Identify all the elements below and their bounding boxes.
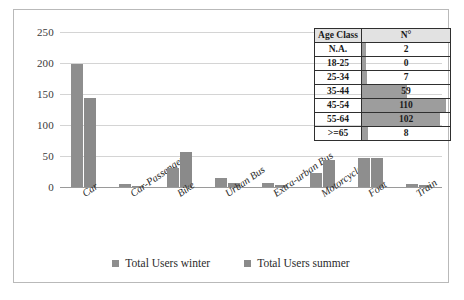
cell-count-value: 8 — [404, 128, 409, 138]
cell-data-bar — [362, 127, 368, 140]
legend-label: Total Users summer — [257, 257, 349, 269]
cell-age-class: 45-54 — [315, 99, 362, 113]
bar-urban-bus-winter[interactable] — [215, 178, 227, 187]
bar-car-passenger-winter[interactable] — [119, 184, 131, 187]
table-row: 18-250 — [315, 57, 451, 71]
legend-swatch-icon — [112, 260, 119, 267]
cell-count: 110 — [362, 99, 451, 113]
table-header-age-class: Age Class — [315, 29, 362, 43]
chart-frame: 050100150200250CarCar-PassengerBikeUrban… — [13, 9, 449, 283]
cell-count-value: 110 — [399, 100, 413, 110]
chart-legend: Total Users winterTotal Users summer — [14, 257, 448, 269]
cell-count-value: 102 — [399, 114, 413, 124]
cell-age-class: 55-64 — [315, 113, 362, 127]
cell-age-class: >=65 — [315, 127, 362, 141]
legend-item[interactable]: Total Users summer — [244, 257, 349, 269]
cell-count: 102 — [362, 113, 451, 127]
age-class-table: Age Class N° N.A.218-25025-34735-445945-… — [314, 28, 451, 141]
cell-count: 2 — [362, 43, 451, 57]
table-row: 45-54110 — [315, 99, 451, 113]
cell-age-class: 18-25 — [315, 57, 362, 71]
cell-data-bar — [362, 57, 366, 70]
table-row: >=658 — [315, 127, 451, 141]
table-row: 25-347 — [315, 71, 451, 85]
y-axis-tick-100: 100 — [37, 119, 54, 131]
cell-count-value: 7 — [404, 72, 409, 82]
cell-count-value: 0 — [404, 58, 409, 68]
cell-count: 59 — [362, 85, 451, 99]
bar-group — [108, 32, 156, 187]
cell-count: 0 — [362, 57, 451, 71]
y-axis-tick-50: 50 — [43, 150, 54, 162]
bar-group — [156, 32, 204, 187]
bar-car-winter[interactable] — [71, 64, 83, 187]
y-axis-tick-150: 150 — [37, 88, 54, 100]
cell-data-bar — [362, 43, 366, 56]
cell-count-value: 2 — [404, 44, 409, 54]
legend-item[interactable]: Total Users winter — [112, 257, 210, 269]
table-row: 55-64102 — [315, 113, 451, 127]
cell-count: 8 — [362, 127, 451, 141]
cell-data-bar — [362, 71, 367, 84]
cell-count: 7 — [362, 71, 451, 85]
bar-group — [203, 32, 251, 187]
y-axis-tick-0: 0 — [48, 181, 54, 193]
cell-age-class: 35-44 — [315, 85, 362, 99]
bar-motorcycle-winter[interactable] — [310, 173, 322, 187]
y-axis-tick-250: 250 — [37, 26, 54, 38]
cell-age-class: N.A. — [315, 43, 362, 57]
bar-foot-winter[interactable] — [358, 158, 370, 187]
y-axis-tick-200: 200 — [37, 57, 54, 69]
bar-bike-winter[interactable] — [167, 168, 179, 187]
table-row: N.A.2 — [315, 43, 451, 57]
legend-label: Total Users winter — [125, 257, 210, 269]
bar-extra-urban-bus-winter[interactable] — [262, 183, 274, 187]
bar-train-winter[interactable] — [406, 184, 418, 187]
bar-group — [251, 32, 299, 187]
table-body: N.A.218-25025-34735-445945-5411055-64102… — [315, 43, 451, 141]
cell-age-class: 25-34 — [315, 71, 362, 85]
legend-swatch-icon — [244, 260, 251, 267]
cell-count-value: 59 — [401, 86, 411, 96]
table-header-count: N° — [362, 29, 451, 43]
table-row: 35-4459 — [315, 85, 451, 99]
bar-group — [60, 32, 108, 187]
table-header-row: Age Class N° — [315, 29, 451, 43]
bar-car-summer[interactable] — [84, 98, 96, 187]
